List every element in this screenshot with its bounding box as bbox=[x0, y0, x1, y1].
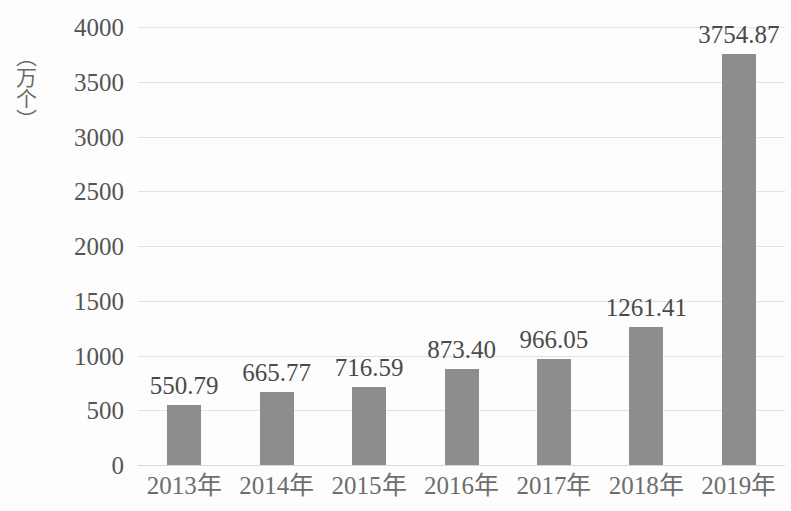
bar bbox=[629, 327, 663, 465]
gridline bbox=[138, 82, 785, 83]
gridline bbox=[138, 465, 785, 466]
x-axis-tick-label: 2019年 bbox=[701, 470, 776, 503]
bar-value-label: 550.79 bbox=[150, 373, 219, 398]
gridline bbox=[138, 137, 785, 138]
bar bbox=[167, 405, 201, 465]
bar-value-label: 3754.87 bbox=[698, 22, 779, 47]
x-axis-tick-label: 2013年 bbox=[147, 470, 222, 503]
y-axis-tick-label: 4000 bbox=[18, 15, 138, 40]
x-axis-tick-label: 2018年 bbox=[609, 470, 684, 503]
y-axis-tick-label: 0 bbox=[18, 453, 138, 478]
bar-chart: （万个） 05001000150020002500300035004000 55… bbox=[0, 0, 791, 511]
x-axis-tick-labels: 2013年2014年2015年2016年2017年2018年2019年 bbox=[138, 470, 785, 511]
bar bbox=[537, 359, 571, 465]
bar-value-label: 873.40 bbox=[427, 337, 496, 362]
bar-value-label: 716.59 bbox=[335, 355, 404, 380]
bar-value-label: 1261.41 bbox=[606, 295, 687, 320]
gridline bbox=[138, 191, 785, 192]
y-axis-tick-label: 1500 bbox=[18, 288, 138, 313]
y-axis-tick-label: 2500 bbox=[18, 179, 138, 204]
y-axis-tick-label: 3500 bbox=[18, 69, 138, 94]
x-axis-tick-label: 2016年 bbox=[424, 470, 499, 503]
y-axis-tick-label: 500 bbox=[18, 398, 138, 423]
gridline bbox=[138, 301, 785, 302]
x-axis-tick-label: 2015年 bbox=[332, 470, 407, 503]
gridline bbox=[138, 27, 785, 28]
gridline bbox=[138, 246, 785, 247]
bar-value-label: 665.77 bbox=[242, 360, 311, 385]
plot-area: 550.79665.77716.59873.40966.051261.41375… bbox=[138, 27, 785, 465]
y-axis-tick-label: 3000 bbox=[18, 124, 138, 149]
bar-value-label: 966.05 bbox=[520, 327, 589, 352]
bar bbox=[445, 369, 479, 465]
bar bbox=[260, 392, 294, 465]
y-axis-tick-label: 2000 bbox=[18, 234, 138, 259]
y-axis-tick-label: 1000 bbox=[18, 343, 138, 368]
x-axis-tick-label: 2017年 bbox=[516, 470, 591, 503]
y-axis-tick-labels: 05001000150020002500300035004000 bbox=[0, 27, 138, 465]
bar bbox=[722, 54, 756, 465]
bar bbox=[352, 387, 386, 465]
x-axis-tick-label: 2014年 bbox=[239, 470, 314, 503]
